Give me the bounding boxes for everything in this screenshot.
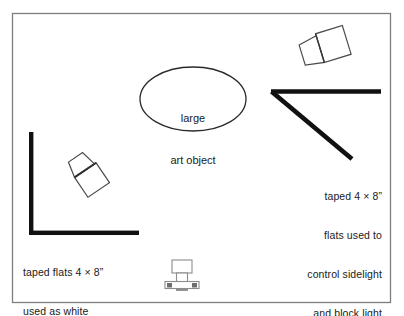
- art-object-label: large art object: [152, 83, 234, 195]
- art-object-label-line-1: large: [152, 111, 234, 125]
- art-object-label-line-2: art object: [152, 153, 234, 167]
- bounce-flat-caption-line-2: used as white: [23, 305, 103, 316]
- bounce-flat-caption-line-1: taped flats 4 × 8”: [23, 266, 103, 279]
- blocking-flat-caption-line-4: and block light: [307, 307, 382, 316]
- diagram-canvas: large art object taped flats 4 × 8” used…: [0, 0, 404, 316]
- blocking-flat-caption-line-2: flats used to: [307, 229, 382, 242]
- blocking-flat-caption: taped 4 × 8” flats used to control sidel…: [307, 164, 382, 316]
- blocking-flat-caption-line-3: control sidelight: [307, 268, 382, 281]
- blocking-flat-caption-line-1: taped 4 × 8”: [307, 190, 382, 203]
- bounce-flat-caption: taped flats 4 × 8” used as white surface…: [23, 240, 103, 316]
